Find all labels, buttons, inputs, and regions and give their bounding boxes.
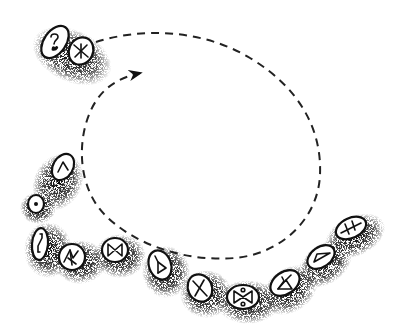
stone-dot bbox=[28, 195, 44, 213]
dashed-path bbox=[82, 33, 320, 259]
diagram-canvas bbox=[0, 0, 397, 334]
dot-icon bbox=[34, 202, 38, 206]
stone-bowtie bbox=[102, 238, 128, 262]
stone-branch-rune bbox=[59, 244, 85, 270]
stone-bowtie-dots bbox=[227, 285, 259, 309]
